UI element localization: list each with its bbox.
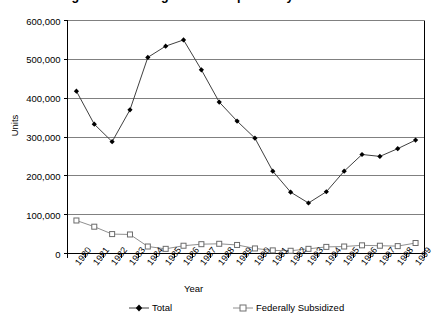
legend-item-federally-subsidized: Federally Subsidized: [232, 301, 344, 315]
y-tick-label: 500,000: [0, 54, 61, 65]
plot-area: [0, 0, 446, 322]
y-tick-label: 100,000: [0, 209, 61, 220]
y-tick-label: 0: [0, 248, 61, 259]
x-axis-title: Year: [184, 283, 203, 294]
y-axis-title: Units: [9, 96, 20, 156]
legend-marker-open-square: [232, 302, 254, 314]
chart-legend: Total Federally Subsidized: [128, 301, 358, 315]
y-axis-ticks: [64, 21, 68, 254]
series-total: [74, 37, 418, 205]
gridlines: [68, 21, 425, 254]
y-tick-label: 200,000: [0, 170, 61, 181]
y-tick-label: 600,000: [0, 15, 61, 26]
legend-label-total: Total: [152, 302, 172, 314]
chart-figure: Figure 1. Housing Units Completed by Yea…: [0, 0, 446, 322]
legend-label-federally-subsidized: Federally Subsidized: [256, 302, 344, 314]
legend-marker-filled-diamond: [128, 302, 150, 314]
legend-item-total: Total: [128, 301, 172, 315]
